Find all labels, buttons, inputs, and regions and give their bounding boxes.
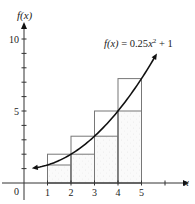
curve-arrow-start-icon: [32, 165, 38, 170]
function-label-tail: + 1: [156, 38, 172, 49]
x-tick-label: 4: [116, 187, 121, 198]
x-axis-label: x: [183, 176, 189, 188]
function-label-eq: = 0.25: [119, 38, 149, 49]
riemann-sum-chart: 12345 510 f(x) x 0 f(x) = 0.25x2 + 1: [0, 0, 195, 204]
x-tick-label: 5: [139, 187, 144, 198]
y-axis-label: f(x): [17, 9, 33, 22]
y-axis: 510: [9, 22, 27, 200]
x-tick-label: 2: [69, 187, 74, 198]
function-label: f(x) = 0.25x2 + 1: [104, 37, 173, 50]
origin-label: 0: [14, 186, 19, 197]
x-tick-label: 3: [92, 187, 97, 198]
x-tick-label: 1: [45, 187, 50, 198]
inscribed-rectangle: [95, 136, 119, 183]
x-axis: 12345: [2, 180, 189, 198]
function-label-lhs: f(x): [104, 38, 119, 50]
inscribed-rectangle: [48, 165, 72, 183]
inscribed-rectangle: [118, 111, 142, 183]
y-tick-label: 5: [14, 106, 19, 117]
y-axis-arrow-icon: [21, 22, 27, 29]
y-tick-label: 10: [9, 34, 19, 45]
inscribed-rectangle: [71, 154, 95, 183]
